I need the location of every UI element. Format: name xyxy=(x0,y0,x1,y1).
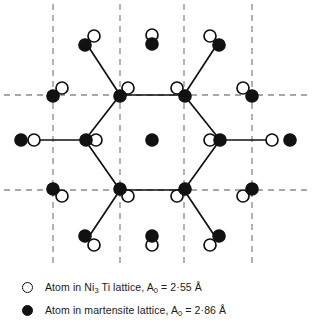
atom-top-left-filled xyxy=(79,39,91,51)
atom-center-filled xyxy=(146,134,158,146)
legend-ni3ti-label: Atom in Ni3 Ti lattice, A0 = 2·55 Å xyxy=(45,281,202,295)
bond-hex-lower-right-edge xyxy=(184,140,220,190)
atom-row-far-right-open xyxy=(266,134,278,146)
bond-spoke-bottom-left-out xyxy=(88,190,120,238)
atom-bottom-right-filled xyxy=(213,230,225,242)
atom-row-far-left-open xyxy=(28,134,40,146)
atom-hex-v4-filled xyxy=(179,183,191,195)
atom-hex-v1-filled xyxy=(114,90,126,102)
atom-hex-v2-filled xyxy=(179,90,191,102)
bond-spoke-top-left-out xyxy=(88,46,120,95)
legend-ni3ti: Atom in Ni3 Ti lattice, A0 = 2·55 Å xyxy=(0,278,313,297)
atom-grid-right-upper-filled xyxy=(246,90,258,102)
filled-circle-icon xyxy=(22,305,33,316)
bond-spoke-bottom-right-out xyxy=(184,190,216,238)
bond-spoke-top-right-out xyxy=(184,46,216,95)
bond-hex-upper-left-edge xyxy=(85,95,120,140)
bond-hex-upper-right-edge xyxy=(184,95,220,140)
atom-row-far-right-filled xyxy=(284,134,296,146)
atom-grid-left-lower-filled xyxy=(47,183,59,195)
legend-martensite-label: Atom in martensite lattice, A0 = 2·86 Å xyxy=(45,304,226,318)
legend: Atom in Ni3 Ti lattice, A0 = 2·55 Å Atom… xyxy=(0,278,313,320)
atom-top-right-filled xyxy=(213,39,225,51)
atom-hex-v3-filled xyxy=(214,134,226,146)
atom-bottom-left-filled xyxy=(79,230,91,242)
lattice-figure: Atom in Ni3 Ti lattice, A0 = 2·55 Å Atom… xyxy=(0,0,313,329)
atom-top-mid-filled xyxy=(146,38,158,50)
legend-martensite: Atom in martensite lattice, A0 = 2·86 Å xyxy=(0,301,313,320)
atom-hex-v6-filled xyxy=(80,134,92,146)
atom-hex-v5-filled xyxy=(114,183,126,195)
atom-grid-right-lower-filled xyxy=(246,183,258,195)
atom-bottom-mid-filled xyxy=(146,230,158,242)
open-circle-icon xyxy=(22,282,33,293)
lattice-diagram xyxy=(0,0,313,270)
atom-row-far-left-filled xyxy=(15,134,27,146)
atom-grid-left-upper-filled xyxy=(47,90,59,102)
bond-hex-lower-left-edge xyxy=(85,140,120,190)
